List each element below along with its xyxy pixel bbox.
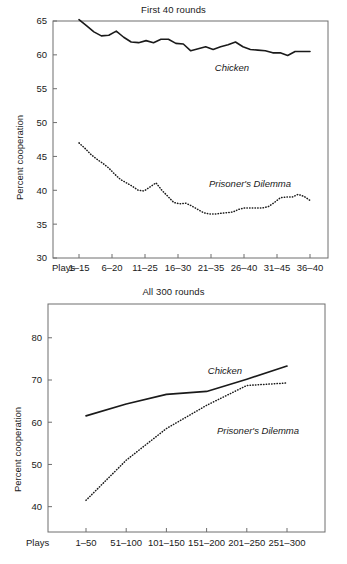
x-tick-label-bottom-1: 51–100 bbox=[110, 537, 142, 548]
y-tick-label-top-30: 30 bbox=[36, 252, 47, 263]
y-tick-label-top-55: 55 bbox=[36, 83, 47, 94]
y-tick-label-bottom-80: 80 bbox=[31, 332, 42, 343]
x-tick-label-top-5: 26–40 bbox=[231, 262, 257, 273]
x-tick-label-top-2: 11–25 bbox=[132, 262, 158, 273]
x-tick-label-bottom-4: 201–250 bbox=[228, 537, 265, 548]
plot-frame-bottom bbox=[48, 304, 325, 532]
y-tick-label-top-35: 35 bbox=[36, 219, 47, 230]
plot-area-bottom: 40506070801–5051–100101–150151–200201–25… bbox=[0, 282, 347, 564]
x-tick-label-top-1: 6–20 bbox=[101, 262, 122, 273]
x-axis-plays-label-bottom: Plays bbox=[26, 537, 49, 548]
y-tick-label-bottom-60: 60 bbox=[31, 417, 42, 428]
x-tick-label-top-3: 16–30 bbox=[165, 262, 191, 273]
series-label-top-chicken: Chicken bbox=[215, 62, 249, 73]
y-tick-label-bottom-40: 40 bbox=[31, 501, 42, 512]
figure-two-panel-line-charts: First 40 rounds Percent cooperation 3035… bbox=[0, 0, 347, 564]
y-tick-label-top-40: 40 bbox=[36, 185, 47, 196]
plot-frame-top bbox=[53, 21, 328, 258]
series-label-bottom-chicken: Chicken bbox=[208, 365, 242, 376]
y-tick-label-top-50: 50 bbox=[36, 117, 47, 128]
y-tick-label-bottom-50: 50 bbox=[31, 459, 42, 470]
chart-panel-first-40-rounds: First 40 rounds Percent cooperation 3035… bbox=[0, 0, 347, 282]
y-tick-label-bottom-70: 70 bbox=[31, 374, 42, 385]
series-label-top-prisoners-dilemma: Prisoner's Dilemma bbox=[209, 178, 291, 189]
series-label-bottom-prisoners-dilemma: Prisoner's Dilemma bbox=[217, 425, 299, 436]
x-tick-label-bottom-0: 1–50 bbox=[75, 537, 96, 548]
x-tick-label-top-4: 21–35 bbox=[198, 262, 224, 273]
x-tick-label-top-7: 36–40 bbox=[297, 262, 323, 273]
chart-panel-all-300-rounds: All 300 rounds Percent cooperation 40506… bbox=[0, 282, 347, 564]
x-axis-plays-label-top: Plays bbox=[52, 262, 75, 273]
plot-area-top: 30354045505560651–156–2011–2516–3021–352… bbox=[0, 0, 347, 282]
x-tick-label-top-6: 31–45 bbox=[264, 262, 290, 273]
x-tick-label-bottom-2: 101–150 bbox=[148, 537, 185, 548]
y-tick-label-top-65: 65 bbox=[36, 15, 47, 26]
x-tick-label-bottom-5: 251–300 bbox=[269, 537, 306, 548]
y-tick-label-top-45: 45 bbox=[36, 151, 47, 162]
series-line-bottom-chicken bbox=[86, 366, 287, 416]
series-line-top-chicken bbox=[79, 20, 310, 56]
x-tick-label-bottom-3: 151–200 bbox=[188, 537, 225, 548]
y-tick-label-top-60: 60 bbox=[36, 49, 47, 60]
series-line-bottom-prisoners-dilemma bbox=[86, 383, 287, 500]
